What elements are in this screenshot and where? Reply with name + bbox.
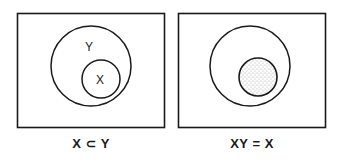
- set-x-label: X: [96, 73, 104, 87]
- caption-subset: X ⊂ Y: [11, 136, 171, 151]
- caption-intersection: XY = X: [172, 136, 332, 151]
- panel-intersection: [179, 14, 326, 128]
- shaded-intersection-circle: [239, 58, 277, 96]
- venn-figure: Y X X ⊂ Y XY = X: [0, 0, 338, 160]
- set-y-circle: [51, 26, 131, 106]
- panel-subset: Y X: [18, 14, 165, 128]
- set-y-label: Y: [85, 40, 93, 54]
- universe-box: [18, 14, 165, 128]
